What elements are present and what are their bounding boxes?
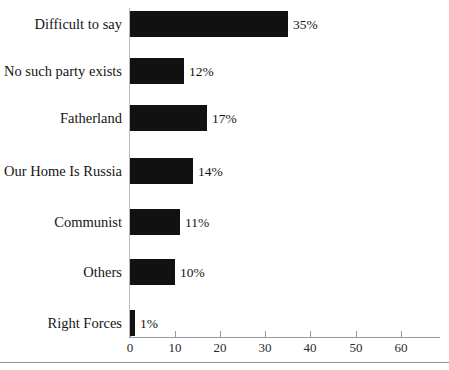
bar-no-such-party-exists xyxy=(130,58,184,84)
bar-fatherland xyxy=(130,105,207,131)
plot-area: 0 10 20 30 40 50 60 Difficult to say 35%… xyxy=(0,0,449,340)
axis-tick-label-60: 60 xyxy=(381,340,421,356)
bar-row: No such party exists 12% xyxy=(0,58,449,84)
bar-others xyxy=(130,259,175,285)
category-label: Others xyxy=(83,262,122,282)
axis-tick-label-0: 0 xyxy=(110,340,150,356)
bar-value-label: 10% xyxy=(180,263,205,282)
bar-row: Others 10% xyxy=(0,259,449,285)
footer-divider xyxy=(0,362,449,363)
bar-chart-figure: 0 10 20 30 40 50 60 Difficult to say 35%… xyxy=(0,0,449,370)
bar-difficult-to-say xyxy=(130,11,288,37)
bar-row: Communist 11% xyxy=(0,209,449,235)
axis-tick-label-50: 50 xyxy=(336,340,376,356)
category-label: Fatherland xyxy=(60,108,122,128)
bar-row: Right Forces 1% xyxy=(0,310,449,336)
category-label: No such party exists xyxy=(4,61,122,81)
bar-value-label: 17% xyxy=(212,109,237,128)
category-label: Right Forces xyxy=(47,313,122,333)
bar-value-label: 12% xyxy=(189,62,214,81)
bar-our-home-is-russia xyxy=(130,158,193,184)
category-label: Communist xyxy=(54,212,122,232)
value-axis-line xyxy=(129,337,440,338)
axis-tick-label-30: 30 xyxy=(245,340,285,356)
bar-right-forces xyxy=(130,310,135,336)
bar-value-label: 11% xyxy=(185,213,209,232)
bar-row: Our Home Is Russia 14% xyxy=(0,158,449,184)
bar-value-label: 1% xyxy=(140,314,158,333)
axis-tick-label-20: 20 xyxy=(200,340,240,356)
bar-row: Fatherland 17% xyxy=(0,105,449,131)
category-label: Difficult to say xyxy=(34,14,122,34)
bar-row: Difficult to say 35% xyxy=(0,11,449,37)
category-label: Our Home Is Russia xyxy=(4,161,122,181)
bar-communist xyxy=(130,209,180,235)
axis-tick-label-10: 10 xyxy=(155,340,195,356)
axis-tick-label-40: 40 xyxy=(290,340,330,356)
bar-value-label: 35% xyxy=(293,15,318,34)
bar-value-label: 14% xyxy=(198,162,223,181)
